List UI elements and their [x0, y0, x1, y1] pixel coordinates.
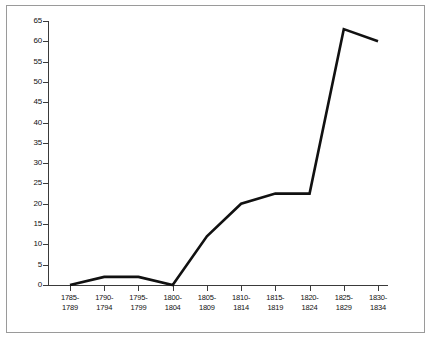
line-chart: 05101520253035404550556065 1785-17891790… — [0, 0, 432, 341]
series-layer — [0, 0, 432, 341]
data-series-line — [70, 29, 378, 285]
